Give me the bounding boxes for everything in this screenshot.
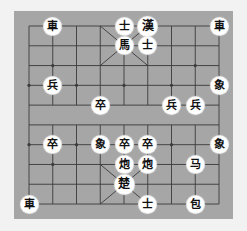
piece-soldier-6-4[interactable]: 卒 — [116, 136, 133, 153]
piece-top-advisor-a[interactable]: 士 — [116, 18, 133, 35]
piece-top-horse[interactable]: 馬 — [116, 37, 133, 54]
piece-cannon-7-4[interactable]: 炮 — [116, 156, 133, 173]
piece-top-chariot-right[interactable]: 車 — [211, 18, 228, 35]
piece-soldier-4-6[interactable]: 兵 — [163, 97, 180, 114]
piece-bottom-chariot[interactable]: 車 — [21, 196, 38, 213]
piece-bottom-advisor[interactable]: 士 — [139, 196, 156, 213]
piece-soldier-4-7[interactable]: 兵 — [187, 97, 204, 114]
piece-bottom-cannon[interactable]: 包 — [187, 196, 204, 213]
piece-top-elephant[interactable]: 象 — [211, 77, 228, 94]
piece-elephant-6-8[interactable]: 象 — [211, 136, 228, 153]
piece-horse-7-7[interactable]: 马 — [187, 156, 204, 173]
piece-top-chariot-left[interactable]: 車 — [44, 18, 61, 35]
piece-elephant-6-3[interactable]: 象 — [92, 136, 109, 153]
piece-soldier-3-1[interactable]: 兵 — [44, 77, 61, 94]
piece-top-general[interactable]: 漢 — [138, 17, 157, 36]
piece-bottom-general[interactable]: 楚 — [115, 175, 134, 194]
piece-soldier-4-3[interactable]: 卒 — [92, 97, 109, 114]
